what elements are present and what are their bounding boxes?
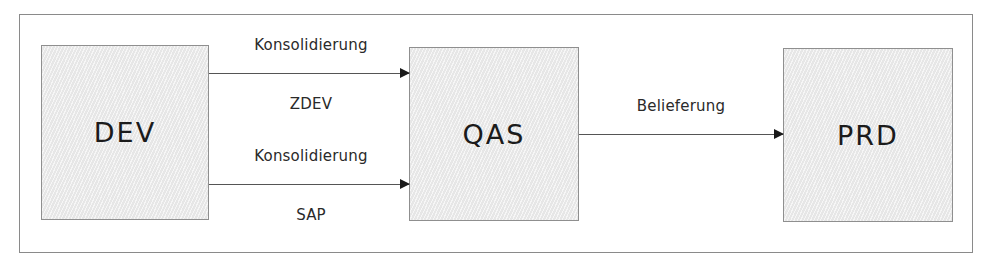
edge-dev-qas-sap-label-below: SAP <box>296 206 326 224</box>
node-qas: QAS <box>409 47 579 221</box>
node-qas-label: QAS <box>463 119 526 150</box>
edge-dev-qas-zdev-label-below: ZDEV <box>290 95 332 113</box>
edge-dev-qas-sap-label-above: Konsolidierung <box>254 147 368 165</box>
edge-qas-prd-label: Belieferung <box>637 97 726 115</box>
node-prd: PRD <box>783 48 953 222</box>
node-prd-label: PRD <box>837 120 899 151</box>
edge-dev-qas-zdev-label-above: Konsolidierung <box>254 36 368 54</box>
node-dev-label: DEV <box>94 117 156 148</box>
arrow-head-icon <box>400 68 410 78</box>
arrow-head-icon <box>400 179 410 189</box>
arrow-head-icon <box>774 129 784 139</box>
edge-qas-prd-arrow <box>579 134 783 135</box>
node-dev: DEV <box>41 45 209 220</box>
edge-dev-qas-zdev-arrow <box>209 73 409 74</box>
edge-dev-qas-sap-arrow <box>209 184 409 185</box>
